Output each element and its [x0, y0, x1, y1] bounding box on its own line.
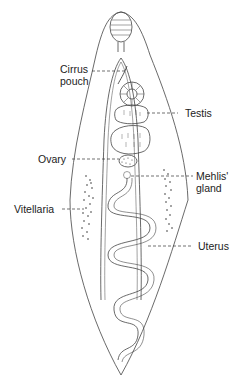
oral-sucker: [110, 12, 132, 42]
testis-posterior: [111, 126, 150, 155]
label-cirrus-pouch: Cirrus pouch: [60, 63, 89, 87]
trematode-diagram: Cirrus pouch Testis Ovary Mehlis' gland …: [0, 0, 241, 385]
label-testis: Testis: [185, 107, 212, 119]
label-uterus: Uterus: [198, 240, 229, 252]
label-cirrus-line1: Cirrus: [60, 63, 89, 75]
label-mehlis-line2: gland: [196, 182, 228, 194]
label-mehlis-line1: Mehlis': [196, 170, 228, 182]
mehlis-gland: [124, 172, 131, 179]
vitellaria-left: [81, 175, 94, 240]
label-ovary: Ovary: [38, 153, 66, 165]
ovary: [119, 155, 137, 167]
label-mehlis-gland: Mehlis' gland: [196, 170, 228, 194]
vitellaria-right: [163, 169, 173, 232]
label-vitellaria: Vitellaria: [14, 203, 54, 215]
cirrus-pouch: [118, 66, 127, 84]
label-cirrus-line2: pouch: [60, 75, 89, 87]
